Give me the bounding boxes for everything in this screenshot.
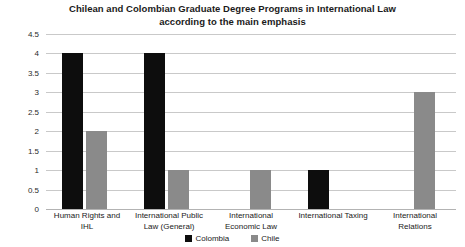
y-tick-label: 2.5 [28, 107, 39, 116]
category-label-line: IHL [46, 222, 128, 233]
category-label-line: Law (General) [128, 222, 210, 233]
bar-colombia [308, 170, 329, 209]
y-tick-label: 0 [35, 205, 39, 214]
bar-group [374, 34, 456, 209]
category-label-line: International Public [128, 211, 210, 222]
legend-swatch-icon [185, 235, 192, 242]
y-tick-label: 0.5 [28, 185, 39, 194]
chart-title-line-2: according to the main emphasis [0, 16, 465, 29]
legend-item-colombia[interactable]: Colombia [185, 234, 229, 243]
y-tick-label: 1 [35, 166, 39, 175]
legend-swatch-icon [251, 235, 258, 242]
legend-label: Colombia [195, 234, 229, 243]
chart-title-line-1: Chilean and Colombian Graduate Degree Pr… [69, 3, 396, 14]
bar-group [292, 34, 374, 209]
y-tick-label: 2 [35, 127, 39, 136]
bar-colombia [144, 53, 165, 209]
plot-area [46, 34, 456, 209]
bar-chile [414, 92, 435, 209]
y-tick-label: 4.5 [28, 30, 39, 39]
y-tick-label: 3.5 [28, 68, 39, 77]
bar-group [46, 34, 128, 209]
category-label-line: International [210, 211, 292, 222]
chart-title: Chilean and Colombian Graduate Degree Pr… [0, 3, 465, 28]
y-axis-tick-labels: 4.543.532.521.510.50 [0, 34, 41, 209]
chart-legend: ColombiaChile [0, 234, 465, 243]
category-label: InternationalRelations [374, 211, 456, 232]
legend-label: Chile [261, 234, 279, 243]
bar-chile [250, 170, 271, 209]
bar-colombia [62, 53, 83, 209]
y-tick-label: 3 [35, 88, 39, 97]
category-label: InternationalEconomic Law [210, 211, 292, 232]
bar-chart: Chilean and Colombian Graduate Degree Pr… [0, 0, 465, 247]
category-label: International PublicLaw (General) [128, 211, 210, 232]
y-tick-label: 1.5 [28, 146, 39, 155]
x-axis-category-labels: Human Rights andIHLInternational PublicL… [46, 211, 456, 235]
category-label-line: Economic Law [210, 222, 292, 233]
category-label-line: Relations [374, 222, 456, 233]
y-tick-label: 4 [35, 49, 39, 58]
bar-group [210, 34, 292, 209]
bar-chile [86, 131, 107, 209]
bar-chile [168, 170, 189, 209]
category-label-line: International [374, 211, 456, 222]
category-label: Human Rights andIHL [46, 211, 128, 232]
gridline [46, 209, 456, 210]
category-label-line: Human Rights and [46, 211, 128, 222]
legend-item-chile[interactable]: Chile [251, 234, 279, 243]
bar-group [128, 34, 210, 209]
category-label: International Taxing [292, 211, 374, 222]
category-label-line: International Taxing [292, 211, 374, 222]
